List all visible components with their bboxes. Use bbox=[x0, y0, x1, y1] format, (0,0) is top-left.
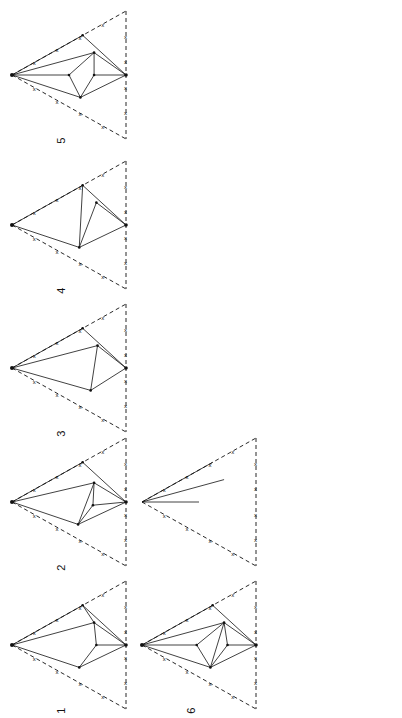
tick-mark: x bbox=[254, 461, 257, 467]
tick-mark: x bbox=[124, 59, 127, 65]
tick-mark: x bbox=[101, 694, 104, 700]
tick-mark: x bbox=[101, 417, 104, 423]
tick-mark: x bbox=[124, 512, 127, 518]
diagram-number-label: 1 bbox=[55, 708, 67, 714]
tick-mark: x bbox=[186, 669, 189, 675]
tick-mark: x bbox=[101, 22, 104, 28]
tick-mark: x bbox=[254, 486, 257, 492]
tick-mark: x bbox=[231, 592, 234, 598]
diagram-4: xxxxxxxxxxxx4 bbox=[10, 161, 128, 294]
tick-mark: x bbox=[78, 404, 81, 410]
tick-mark: x bbox=[186, 526, 189, 532]
tick-mark: x bbox=[254, 629, 257, 635]
tick-mark: x bbox=[124, 680, 127, 686]
tick-mark: x bbox=[231, 551, 234, 557]
tick-mark: x bbox=[33, 236, 36, 242]
tick-mark: x bbox=[33, 513, 36, 519]
tick-mark: x bbox=[124, 85, 127, 91]
diagram-number-label: 5 bbox=[55, 138, 67, 144]
tick-mark: x bbox=[124, 403, 127, 409]
tick-mark: x bbox=[124, 34, 127, 40]
diagram-3: xxxxxxxxxxxx3 bbox=[10, 304, 128, 437]
diagram-2: xxxxxxxxxxxx2 bbox=[10, 438, 128, 571]
diagram-number-label: 6 bbox=[185, 708, 197, 714]
tick-mark: x bbox=[78, 538, 81, 544]
tick-mark: x bbox=[124, 378, 127, 384]
tick-mark: x bbox=[124, 629, 127, 635]
tick-mark: x bbox=[254, 680, 257, 686]
diagram-number-label: 4 bbox=[55, 288, 67, 294]
tick-mark: x bbox=[124, 260, 127, 266]
tick-mark: x bbox=[101, 592, 104, 598]
tick-mark: x bbox=[124, 352, 127, 358]
tick-mark: x bbox=[33, 86, 36, 92]
tick-mark: x bbox=[101, 172, 104, 178]
tick-mark: x bbox=[124, 655, 127, 661]
diagram-7: xxxxxxxxxxxx bbox=[142, 438, 257, 566]
tick-mark: x bbox=[124, 184, 127, 190]
tick-mark: x bbox=[101, 124, 104, 130]
tick-mark: x bbox=[78, 111, 81, 117]
diagram-number-label: 3 bbox=[55, 431, 67, 437]
tick-mark: x bbox=[231, 449, 234, 455]
tick-mark: x bbox=[56, 526, 59, 532]
tick-mark: x bbox=[254, 537, 257, 543]
tick-mark: x bbox=[33, 656, 36, 662]
tick-mark: x bbox=[101, 315, 104, 321]
tick-mark: x bbox=[163, 513, 166, 519]
tick-mark: x bbox=[124, 486, 127, 492]
tick-mark: x bbox=[101, 274, 104, 280]
tick-mark: x bbox=[231, 694, 234, 700]
triangle-diagram-grid: xxxxxxxxxxxx1xxxxxxxxxxxx2xxxxxxxxxxxx3x… bbox=[0, 0, 402, 718]
tick-mark: x bbox=[78, 681, 81, 687]
diagram-number-label: 2 bbox=[55, 565, 67, 571]
tick-mark: x bbox=[33, 379, 36, 385]
tick-mark: x bbox=[254, 655, 257, 661]
tick-mark: x bbox=[124, 209, 127, 215]
tick-mark: x bbox=[254, 604, 257, 610]
diagram-5: xxxxxxxxxxxx5 bbox=[10, 11, 128, 144]
tick-mark: x bbox=[124, 110, 127, 116]
tick-mark: x bbox=[56, 392, 59, 398]
tick-mark: x bbox=[124, 461, 127, 467]
figure-panel-b: xxxxxxxxxxxx1xxxxxxxxxxxx2xxxxxxxxxxxx3x… bbox=[0, 0, 402, 718]
tick-mark: x bbox=[56, 99, 59, 105]
tick-mark: x bbox=[124, 604, 127, 610]
tick-mark: x bbox=[124, 235, 127, 241]
tick-mark: x bbox=[56, 669, 59, 675]
tick-mark: x bbox=[163, 656, 166, 662]
tick-mark: x bbox=[56, 249, 59, 255]
tick-mark: x bbox=[101, 449, 104, 455]
diagram-1: xxxxxxxxxxxx1 bbox=[10, 581, 128, 714]
tick-mark: x bbox=[101, 551, 104, 557]
tick-mark: x bbox=[124, 327, 127, 333]
tick-mark: x bbox=[208, 681, 211, 687]
tick-mark: x bbox=[208, 538, 211, 544]
tick-mark: x bbox=[254, 512, 257, 518]
tick-mark: x bbox=[78, 261, 81, 267]
diagram-6: xxxxxxxxxxxx6 bbox=[140, 581, 258, 714]
tick-mark: x bbox=[124, 537, 127, 543]
